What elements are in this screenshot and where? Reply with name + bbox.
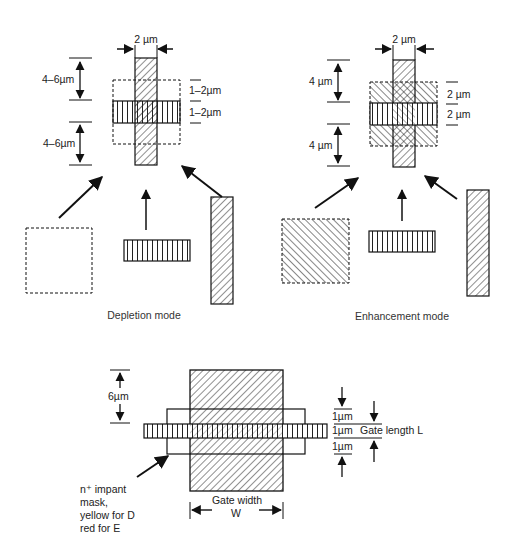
depletion-active-shape <box>124 240 190 261</box>
enhancement-upper-extent-label: 4 µm <box>309 75 333 87</box>
depletion-overlap-bottom-label: 1–2µm <box>189 106 222 118</box>
enhancement-overlap-bottom-label: 2 µm <box>447 108 471 120</box>
depletion-implant-mask-shape <box>26 228 92 293</box>
depletion-gate-width-label: 2 µm <box>134 33 158 45</box>
enhancement-implant-mask-shape <box>282 219 349 283</box>
enhancement-mode-group: 2 µm 4 µm 4 µm 2 µm 2 µm Enhancement mod… <box>282 33 489 322</box>
mask-note-line-1: n⁺ impant <box>80 483 126 495</box>
dim-mid-label: 1µm <box>332 424 353 436</box>
enhancement-lower-extent-label: 4 µm <box>309 139 333 151</box>
gate-width-label: Gate width <box>212 494 262 506</box>
gate-extension-label: 6µm <box>108 390 129 402</box>
depletion-mode-group: 2 µm 4–6µm 4–6µm 1–2µm 1–2µm Depletion m… <box>26 33 233 321</box>
mask-note-line-4: red for E <box>80 522 120 534</box>
dim-bottom-label: 1µm <box>332 440 353 452</box>
gate-length-label: Gate length L <box>360 424 423 436</box>
dim-top-label: 1µm <box>332 410 353 422</box>
depletion-overlap-top-label: 1–2µm <box>189 84 222 96</box>
enhancement-active-shape <box>369 231 435 252</box>
enhancement-mode-caption: Enhancement mode <box>355 310 449 322</box>
gate-width-symbol: W <box>231 507 241 519</box>
mask-note-line-3: yellow for D <box>80 509 135 521</box>
enhancement-gate-shape <box>467 190 489 296</box>
depletion-gate-shape <box>211 197 233 304</box>
combined-layout-group: 6µm 1µm 1µm Gate length L 1µm Gate width… <box>80 370 423 534</box>
mosfet-layout-diagram: 2 µm 4–6µm 4–6µm 1–2µm 1–2µm Depletion m… <box>0 0 512 560</box>
depletion-lower-extent-label: 4–6µm <box>43 137 76 149</box>
enhancement-gate-width-label: 2 µm <box>392 33 416 45</box>
depletion-mode-caption: Depletion mode <box>107 309 181 321</box>
enhancement-overlap-top-label: 2 µm <box>447 88 471 100</box>
mask-note-line-2: mask, <box>80 496 108 508</box>
depletion-upper-extent-label: 4–6µm <box>42 73 75 85</box>
